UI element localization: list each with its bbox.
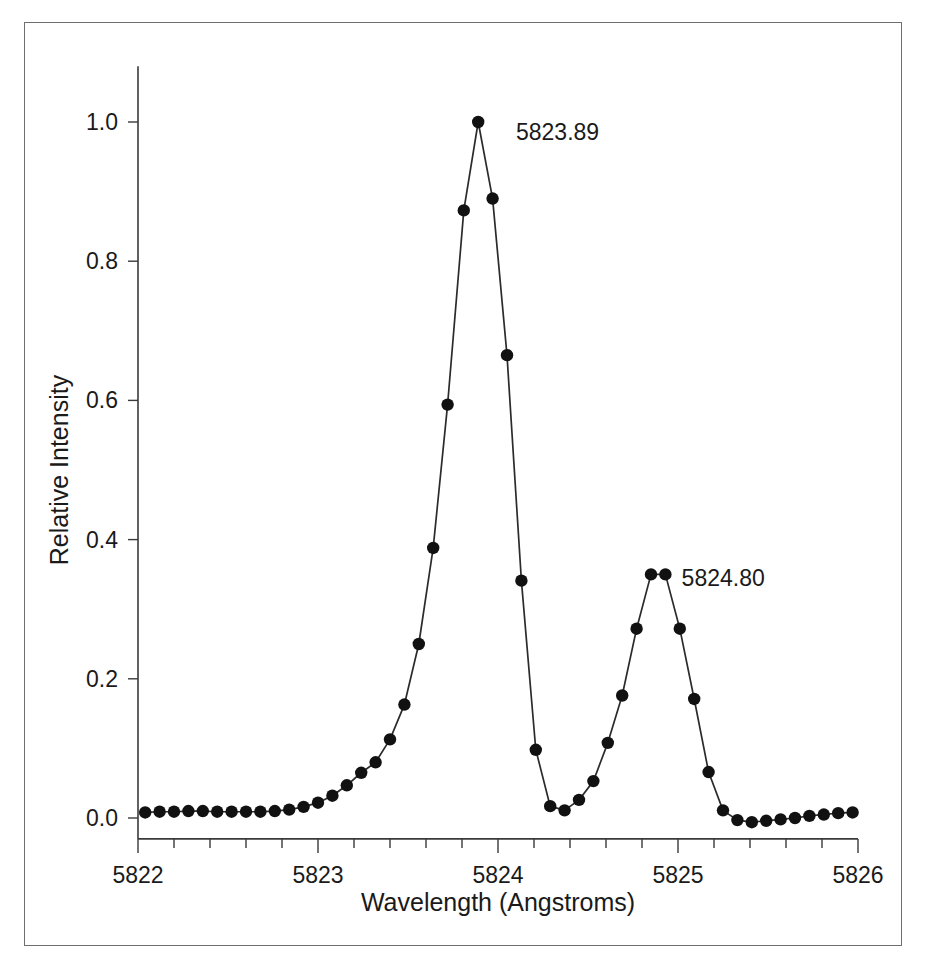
figure-page: 0.00.20.40.60.81.0 58225823582458255826 … xyxy=(0,0,926,968)
figure-border xyxy=(24,22,902,946)
